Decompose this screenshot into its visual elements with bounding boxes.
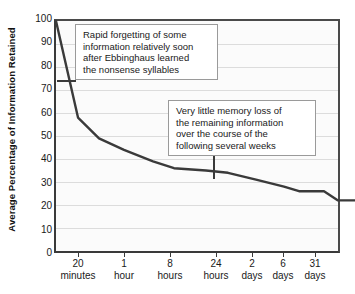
callout-1-line-3: after Ebbinghaus learned xyxy=(83,52,211,64)
y-tick-label-20: 20 xyxy=(26,201,52,211)
y-tick-label-30: 30 xyxy=(26,178,52,188)
y-axis-title-text: Average Percentage of Information Retain… xyxy=(6,27,17,231)
callout-2-line-4: following several weeks xyxy=(176,140,309,152)
x-tick-mark-2 xyxy=(170,253,171,257)
x-tick-label-6-unit: days xyxy=(283,270,347,282)
x-tick-mark-1 xyxy=(124,253,125,257)
forgetting-curve-chart: Average Percentage of Information Retain… xyxy=(0,0,355,294)
x-tick-mark-5 xyxy=(283,253,284,257)
callout-2-line-3: over the course of the xyxy=(176,128,309,140)
y-axis-title: Average Percentage of Information Retain… xyxy=(0,0,22,258)
callout-1-line-4: the nonsense syllables xyxy=(83,64,211,76)
x-tick-label-6-value: 31 xyxy=(283,258,347,270)
y-tick-label-60: 60 xyxy=(26,108,52,118)
y-tick-label-90: 90 xyxy=(26,37,52,47)
x-tick-mark-4 xyxy=(252,253,253,257)
callout-1-line-1: Rapid forgetting of some xyxy=(83,29,211,41)
y-tick-label-80: 80 xyxy=(26,61,52,71)
y-tick-label-10: 10 xyxy=(26,225,52,235)
callout-2-leader-line xyxy=(213,153,215,179)
x-tick-mark-6 xyxy=(315,253,316,257)
callout-2-line-2: the remaining information xyxy=(176,117,309,129)
x-tick-mark-0 xyxy=(78,253,79,257)
x-tick-label-6: 31days xyxy=(283,258,347,282)
callout-little-memory-loss: Very little memory loss of the remaining… xyxy=(168,100,316,156)
callout-1-leader-line xyxy=(57,80,76,82)
y-tick-label-40: 40 xyxy=(26,154,52,164)
callout-rapid-forgetting: Rapid forgetting of some information rel… xyxy=(75,24,218,80)
x-tick-mark-3 xyxy=(216,253,217,257)
callout-2-line-1: Very little memory loss of xyxy=(176,105,309,117)
y-tick-label-100: 100 xyxy=(26,14,52,24)
y-tick-label-0: 0 xyxy=(26,248,52,258)
y-tick-label-70: 70 xyxy=(26,84,52,94)
callout-1-line-2: information relatively soon xyxy=(83,41,211,53)
y-axis-tick-labels: 1009080706050403020100 xyxy=(22,0,52,294)
y-tick-label-50: 50 xyxy=(26,131,52,141)
